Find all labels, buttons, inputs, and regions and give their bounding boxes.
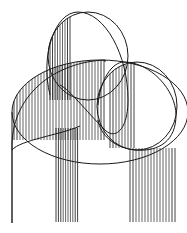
right-loop-hatch xyxy=(110,62,134,148)
hatching-lines xyxy=(12,17,175,223)
line-art-illustration xyxy=(0,0,187,233)
middle-leg-hatch xyxy=(56,128,78,222)
right-loop-outline xyxy=(97,62,177,150)
